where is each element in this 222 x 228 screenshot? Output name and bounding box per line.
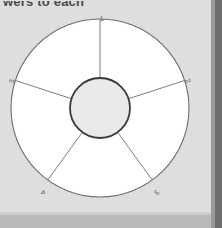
scan-edge-bottom-highlight [0, 212, 222, 215]
wheel-segment-label-3: 3 [153, 189, 161, 197]
wheel-segment-label-4: 4 [39, 189, 47, 197]
scan-edge-right-highlight [211, 0, 215, 228]
wheel-segment-label-1: 1 [99, 15, 104, 22]
scan-edge-right [211, 0, 222, 228]
wheel-svg: 12345 [0, 8, 200, 208]
wheel-diagram: 12345 [0, 8, 200, 208]
wheel-hub [70, 78, 130, 138]
scanned-page: wers to each 12345 [0, 0, 222, 228]
scan-edge-bottom [0, 212, 222, 228]
